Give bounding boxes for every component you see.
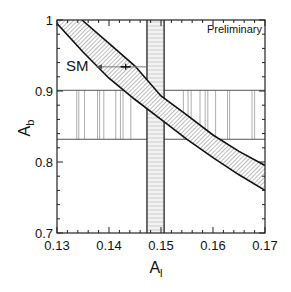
y-tick-label: 1 [46, 13, 53, 28]
vertical-band-al [147, 20, 164, 233]
chart-canvas: 0.130.140.150.160.17 0.70.80.91 Prelimin… [0, 0, 291, 292]
x-axis-title: Al [149, 259, 162, 279]
x-tick-label: 0.14 [96, 238, 121, 253]
plot-area [57, 18, 265, 233]
x-tick-label: 0.15 [148, 238, 173, 253]
x-tick-labels: 0.130.140.150.160.17 [44, 238, 277, 253]
y-axis-title: Ab [16, 120, 36, 137]
x-tick-label: 0.16 [200, 238, 225, 253]
y-tick-label: 0.8 [35, 155, 53, 170]
preliminary-label: Preliminary [207, 23, 263, 35]
svg-text:Ab: Ab [16, 120, 36, 137]
y-tick-label: 0.7 [35, 226, 53, 241]
x-tick-label: 0.17 [252, 238, 277, 253]
y-tick-labels: 0.70.80.91 [35, 13, 53, 241]
sm-label: SM [66, 57, 89, 74]
svg-text:Al: Al [149, 259, 162, 279]
y-tick-label: 0.9 [35, 84, 53, 99]
